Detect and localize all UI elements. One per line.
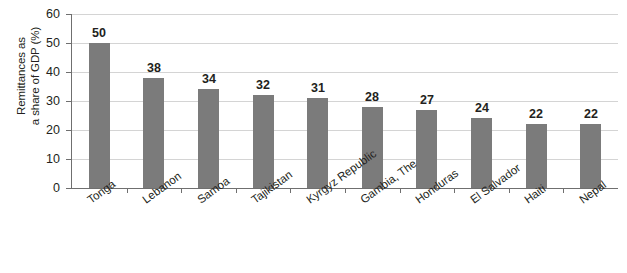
x-tick <box>127 189 128 193</box>
x-tick <box>345 189 346 193</box>
y-tick-label-wrap: 60 <box>14 8 60 20</box>
y-axis-line <box>71 14 72 189</box>
y-tick-label: 20 <box>14 124 60 136</box>
bar <box>362 107 383 188</box>
bar <box>253 95 274 188</box>
y-tick-label-wrap: 10 <box>14 153 60 165</box>
x-tick <box>454 189 455 193</box>
x-tick <box>290 189 291 193</box>
y-tick-label: 40 <box>14 66 60 78</box>
bar-value-label: 22 <box>571 108 611 121</box>
y-tick-label-wrap: 20 <box>14 124 60 136</box>
bar-value-label: 32 <box>243 79 283 92</box>
plot-area: 50383432312827242222 <box>72 14 618 188</box>
bar <box>526 124 547 188</box>
x-tick <box>509 189 510 193</box>
x-tick <box>236 189 237 193</box>
y-tick-label: 50 <box>14 37 60 49</box>
y-tick-label-wrap: 30 <box>14 95 60 107</box>
bar <box>89 43 110 188</box>
bar-value-label: 50 <box>79 27 119 40</box>
bar <box>198 89 219 188</box>
bar-chart: Remittances as a share of GDP (%) 503834… <box>0 0 627 273</box>
bar <box>471 118 492 188</box>
y-tick-40 <box>66 72 71 73</box>
bar <box>143 78 164 188</box>
y-tick-label: 60 <box>14 8 60 20</box>
bar <box>307 98 328 188</box>
bar-value-label: 38 <box>134 62 174 75</box>
y-tick-60 <box>66 14 71 15</box>
y-tick-label: 10 <box>14 153 60 165</box>
bar-value-label: 22 <box>516 108 556 121</box>
y-tick-10 <box>66 159 71 160</box>
x-tick <box>563 189 564 193</box>
bar-value-label: 27 <box>407 94 447 107</box>
y-tick-label: 0 <box>14 182 60 194</box>
gridline-60 <box>72 14 618 15</box>
bar-value-label: 28 <box>352 91 392 104</box>
x-tick <box>400 189 401 193</box>
y-tick-label: 30 <box>14 95 60 107</box>
y-tick-30 <box>66 101 71 102</box>
gridline-50 <box>72 43 618 44</box>
bar-value-label: 34 <box>189 73 229 86</box>
y-tick-label-wrap: 0 <box>14 182 60 194</box>
bar-value-label: 31 <box>298 82 338 95</box>
bar-value-label: 24 <box>462 102 502 115</box>
y-tick-20 <box>66 130 71 131</box>
bar <box>580 124 601 188</box>
y-tick-label-wrap: 40 <box>14 66 60 78</box>
y-tick-50 <box>66 43 71 44</box>
x-tick <box>181 189 182 193</box>
y-tick-label-wrap: 50 <box>14 37 60 49</box>
bar <box>416 110 437 188</box>
